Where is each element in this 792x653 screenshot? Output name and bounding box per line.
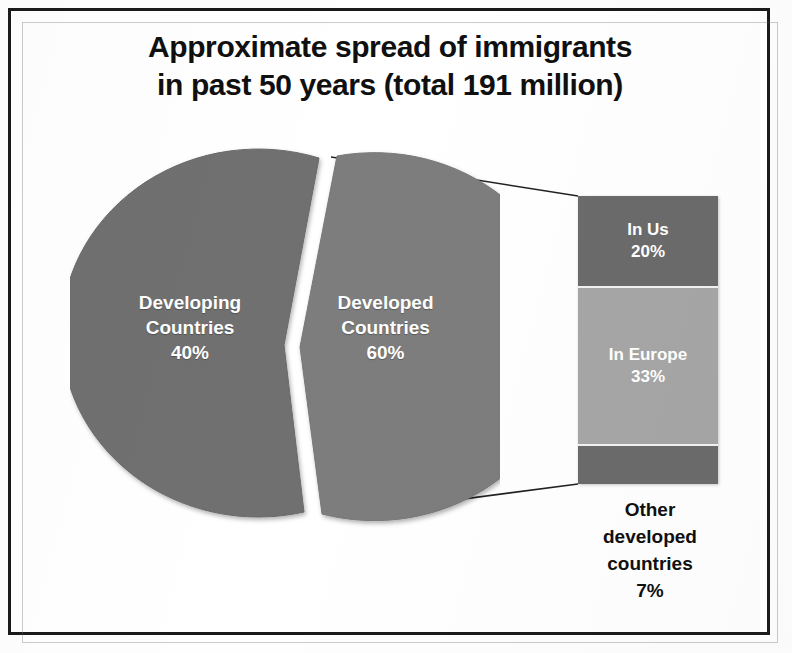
bar-segment-in-europe[interactable]: In Europe 33%: [578, 288, 718, 446]
pie-slice-developed-value: 60%: [298, 340, 473, 365]
pie-slice-developing-label: Developing Countries 40%: [95, 290, 285, 365]
bar-segment-in-us[interactable]: In Us 20%: [578, 196, 718, 288]
pie-slice-developing-name-line-2: Countries: [95, 315, 285, 340]
pie-chart: Developing Countries 40% Developed Count…: [70, 145, 500, 545]
bar-segment-in-europe-value: 33%: [631, 366, 665, 388]
pie-slice-developed-label: Developed Countries 60%: [298, 290, 473, 365]
chart-title-line-2: in past 50 years (total 191 million): [60, 66, 720, 104]
bar-caption-line-2: developed: [560, 523, 740, 550]
pie-slice-developing-value: 40%: [95, 340, 285, 365]
pie-slice-developing-name-line-1: Developing: [95, 290, 285, 315]
bar-caption-line-3: countries: [560, 550, 740, 577]
chart-title: Approximate spread of immigrants in past…: [60, 28, 720, 104]
bar-segment-in-europe-label: In Europe: [609, 344, 687, 366]
pie-slice-developed-name-line-1: Developed: [298, 290, 473, 315]
bar-segment-other-developed-caption: Other developed countries 7%: [560, 496, 740, 604]
chart-title-line-1: Approximate spread of immigrants: [60, 28, 720, 66]
bar-segment-in-us-value: 20%: [631, 241, 665, 263]
bar-caption-line-4: 7%: [560, 577, 740, 604]
bar-segment-in-us-label: In Us: [627, 219, 669, 241]
pie-slice-developed-name-line-2: Countries: [298, 315, 473, 340]
bar-segment-other-developed[interactable]: [578, 446, 718, 484]
bar-caption-line-1: Other: [560, 496, 740, 523]
chart-figure: Approximate spread of immigrants in past…: [0, 0, 792, 653]
stacked-bar-chart: In Us 20% In Europe 33%: [578, 196, 718, 484]
